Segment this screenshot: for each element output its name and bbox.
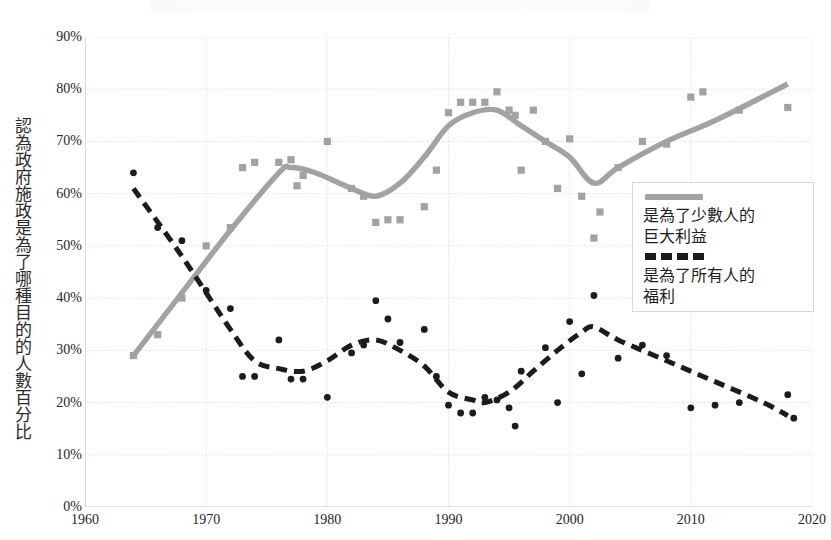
x-tick-label: 1970 bbox=[176, 512, 236, 528]
data-point-marker bbox=[784, 104, 791, 111]
legend-label-all: 是為了所有人的 福利 bbox=[643, 265, 803, 307]
y-axis-title: 認為政府施政是為了哪種目的的人數百分比 bbox=[2, 58, 32, 498]
data-point-marker bbox=[542, 344, 549, 351]
data-point-marker bbox=[239, 164, 246, 171]
data-point-marker bbox=[687, 404, 694, 411]
x-tick-label: 1960 bbox=[55, 512, 115, 528]
data-point-marker bbox=[663, 352, 670, 359]
y-tick-label: 90% bbox=[36, 29, 82, 45]
data-point-marker bbox=[324, 138, 331, 145]
data-point-marker bbox=[227, 305, 234, 312]
data-point-marker bbox=[554, 185, 561, 192]
data-point-marker bbox=[518, 368, 525, 375]
data-point-marker bbox=[130, 169, 137, 176]
data-point-marker bbox=[699, 88, 706, 95]
data-point-marker bbox=[712, 402, 719, 409]
data-point-marker bbox=[384, 216, 391, 223]
data-point-marker bbox=[578, 193, 585, 200]
data-point-marker bbox=[300, 376, 307, 383]
data-point-marker bbox=[372, 219, 379, 226]
data-point-marker bbox=[397, 339, 404, 346]
x-tick-label: 2010 bbox=[661, 512, 721, 528]
data-point-marker bbox=[615, 355, 622, 362]
data-point-marker bbox=[396, 216, 403, 223]
legend-swatch-dashed-icon bbox=[645, 253, 705, 260]
legend-entry-minority[interactable]: 是為了少數人的 巨大利益 bbox=[643, 194, 803, 247]
x-tick-label: 2020 bbox=[782, 512, 831, 528]
scan-artifact bbox=[150, 0, 650, 12]
data-point-marker bbox=[179, 237, 186, 244]
data-point-marker bbox=[457, 410, 464, 417]
data-point-marker bbox=[421, 203, 428, 210]
data-point-marker bbox=[790, 415, 797, 422]
data-point-marker bbox=[784, 391, 791, 398]
data-point-marker bbox=[566, 318, 573, 325]
y-tick-label: 10% bbox=[36, 447, 82, 463]
data-point-marker bbox=[372, 297, 379, 304]
data-point-marker bbox=[530, 107, 537, 114]
legend-entry-all[interactable]: 是為了所有人的 福利 bbox=[643, 253, 803, 307]
y-tick-label: 30% bbox=[36, 342, 82, 358]
data-point-marker bbox=[251, 373, 258, 380]
y-tick-label: 50% bbox=[36, 238, 82, 254]
data-point-marker bbox=[457, 99, 464, 106]
data-point-marker bbox=[239, 373, 246, 380]
data-point-marker bbox=[578, 370, 585, 377]
data-point-marker bbox=[512, 423, 519, 430]
data-point-marker bbox=[493, 88, 500, 95]
data-point-marker bbox=[687, 93, 694, 100]
data-point-marker bbox=[736, 399, 743, 406]
x-tick-label: 2000 bbox=[540, 512, 600, 528]
data-point-marker bbox=[293, 182, 300, 189]
data-point-marker bbox=[203, 242, 210, 249]
legend: 是為了少數人的 巨大利益 是為了所有人的 福利 bbox=[632, 182, 814, 312]
data-point-marker bbox=[324, 394, 331, 401]
data-point-marker bbox=[348, 350, 355, 357]
data-point-marker bbox=[433, 167, 440, 174]
data-point-marker bbox=[469, 410, 476, 417]
data-point-marker bbox=[275, 159, 282, 166]
data-point-marker bbox=[287, 156, 294, 163]
data-point-marker bbox=[639, 138, 646, 145]
y-tick-label: 80% bbox=[36, 81, 82, 97]
data-point-marker bbox=[506, 404, 513, 411]
data-point-marker bbox=[445, 109, 452, 116]
data-point-marker bbox=[554, 399, 561, 406]
data-point-marker bbox=[300, 172, 307, 179]
y-tick-label: 60% bbox=[36, 186, 82, 202]
x-tick-label: 1980 bbox=[297, 512, 357, 528]
data-point-marker bbox=[275, 336, 282, 343]
legend-label-minority: 是為了少數人的 巨大利益 bbox=[643, 205, 803, 247]
data-point-marker bbox=[421, 326, 428, 333]
data-point-marker bbox=[251, 159, 258, 166]
data-point-marker bbox=[590, 234, 597, 241]
data-point-marker bbox=[591, 292, 598, 299]
y-tick-label: 40% bbox=[36, 290, 82, 306]
x-tick-label: 1990 bbox=[419, 512, 479, 528]
data-point-marker bbox=[518, 167, 525, 174]
data-point-marker bbox=[481, 99, 488, 106]
data-point-marker bbox=[154, 331, 161, 338]
data-point-marker bbox=[566, 135, 573, 142]
data-point-marker bbox=[596, 208, 603, 215]
data-point-marker bbox=[385, 316, 392, 323]
data-point-marker bbox=[288, 376, 295, 383]
data-point-marker bbox=[469, 99, 476, 106]
y-tick-label: 20% bbox=[36, 395, 82, 411]
legend-swatch-solid-icon bbox=[645, 194, 703, 200]
y-axis-tick-labels: 90%80%70%60%50%40%30%20%10%0% bbox=[32, 0, 82, 540]
y-tick-label: 70% bbox=[36, 133, 82, 149]
data-point-marker bbox=[445, 402, 452, 409]
